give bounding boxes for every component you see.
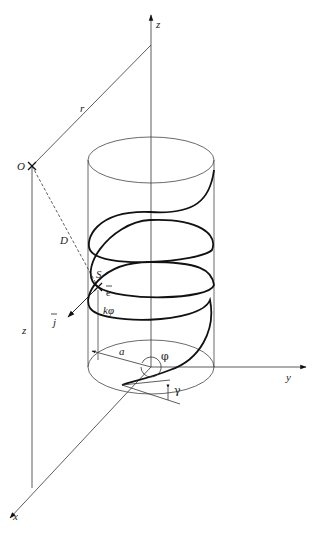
label-e: e [106, 286, 111, 298]
label-kphi: kφ [103, 304, 114, 316]
tangent-line [122, 385, 180, 404]
label-x: x [12, 510, 18, 522]
label-gamma: γ [174, 384, 181, 397]
label-a: a [119, 345, 125, 357]
label-z-top: z [155, 18, 161, 30]
label-O: O [17, 160, 25, 172]
x-axis [10, 367, 151, 518]
helix-diagram: z r O D S e j kφ z a φ y γ x [0, 0, 316, 533]
label-S: S [96, 268, 102, 280]
axes [10, 15, 306, 518]
label-D: D [59, 234, 68, 246]
label-phi: φ [161, 350, 169, 363]
label-j: j [51, 316, 56, 328]
label-z-height: z [21, 324, 27, 336]
label-r: r [80, 102, 85, 114]
label-y: y [285, 371, 291, 383]
r-line [32, 45, 151, 166]
